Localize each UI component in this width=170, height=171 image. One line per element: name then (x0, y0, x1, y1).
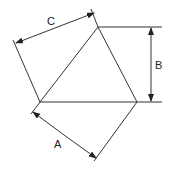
triangle-diagram: C B A (0, 0, 170, 171)
extension-line-a-left (31, 102, 40, 114)
extension-line-c-right (91, 9, 98, 27)
label-a: A (54, 138, 62, 150)
dimension-line-a (33, 112, 64, 135)
label-b: B (155, 59, 162, 71)
dimension-line-c (16, 28, 55, 43)
triangle (40, 27, 137, 102)
extension-line-c-left (13, 40, 40, 102)
label-c: C (47, 15, 55, 27)
extension-line-a-right (94, 102, 137, 161)
